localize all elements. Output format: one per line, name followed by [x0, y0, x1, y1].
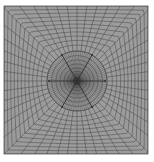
- figure-caption: [60, 154, 130, 162]
- mesh-diagram: [0, 0, 154, 162]
